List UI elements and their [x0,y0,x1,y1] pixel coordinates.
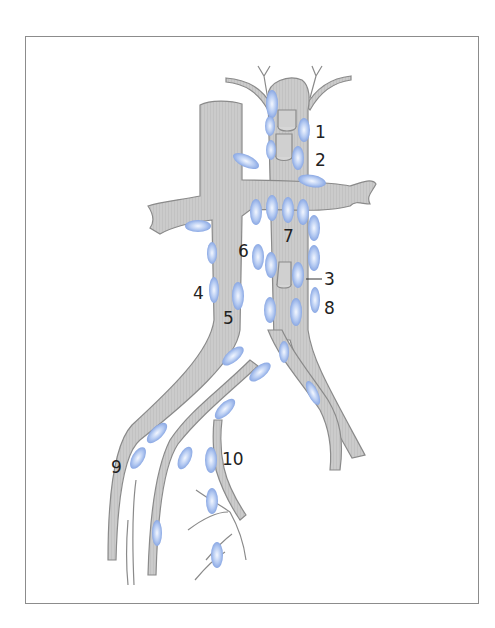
lymph-node [185,220,211,232]
lymph-node [209,277,219,303]
label-5: 5 [223,310,234,327]
lymph-node [174,445,195,472]
label-3: 3 [324,271,335,288]
lymph-node [252,244,264,270]
lymph-node [266,140,276,160]
lymph-node [266,90,278,118]
label-2: 2 [315,152,326,169]
lymph-node [205,447,217,473]
left-vessel [108,101,376,560]
vessels [108,66,376,585]
label-1: 1 [315,124,326,141]
label-9: 9 [111,459,122,476]
lymph-node [250,199,262,225]
lymph-node [152,520,162,546]
lymph-node [207,242,217,264]
lymph-node [265,252,277,278]
lymph-node [266,195,278,221]
lymph-node [232,282,244,310]
lymph-node [279,341,289,363]
lymph-node [297,199,309,225]
lymph-node [308,245,320,271]
lymph-node [298,118,310,142]
label-4: 4 [193,285,204,302]
lymph-node [206,488,218,514]
lymph-node [264,297,276,323]
vessel-diagram [0,0,495,628]
lymph-node [282,197,294,223]
lymph-node [290,298,302,326]
lymph-node [265,116,275,136]
label-6: 6 [238,243,249,260]
lymph-node [308,215,320,241]
lymph-node [211,542,223,568]
lymph-node [292,262,304,288]
label-8: 8 [324,300,335,317]
top-right-branch [306,76,351,110]
lymph-node [292,146,304,170]
label-10: 10 [222,451,244,468]
lymph-node [310,287,320,313]
label-7: 7 [283,228,294,245]
